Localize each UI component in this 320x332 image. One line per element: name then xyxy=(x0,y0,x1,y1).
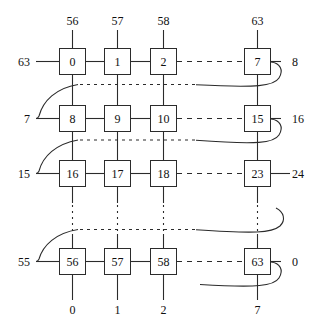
node-23[interactable]: 23 xyxy=(244,160,271,187)
top-label-col0: 56 xyxy=(57,14,88,29)
node-16[interactable]: 16 xyxy=(59,160,86,187)
bottom-label-col0: 0 xyxy=(57,303,88,318)
node-56[interactable]: 56 xyxy=(59,248,86,275)
left-label-row2: 15 xyxy=(0,167,30,182)
bottom-label-col7: 7 xyxy=(242,303,273,318)
left-label-row7: 55 xyxy=(0,255,30,270)
node-57[interactable]: 57 xyxy=(104,248,131,275)
bottom-label-col1: 1 xyxy=(102,303,133,318)
right-label-row7: 0 xyxy=(292,255,320,270)
wrap-right-hook-row6 xyxy=(196,208,283,232)
diagram-canvas: 0 1 2 7 8 9 10 15 16 17 18 23 56 57 58 6… xyxy=(0,0,320,332)
node-18[interactable]: 18 xyxy=(150,160,177,187)
left-label-row0: 63 xyxy=(0,55,30,70)
node-63[interactable]: 63 xyxy=(244,248,271,275)
top-label-col1: 57 xyxy=(102,14,133,29)
right-label-row1: 16 xyxy=(292,112,320,127)
node-1[interactable]: 1 xyxy=(104,48,131,75)
bottom-label-col2: 2 xyxy=(148,303,179,318)
node-15[interactable]: 15 xyxy=(244,105,271,132)
top-label-col7: 63 xyxy=(242,14,273,29)
node-7[interactable]: 7 xyxy=(244,48,271,75)
node-0[interactable]: 0 xyxy=(59,48,86,75)
node-17[interactable]: 17 xyxy=(104,160,131,187)
node-8[interactable]: 8 xyxy=(59,105,86,132)
left-label-row1: 7 xyxy=(0,112,30,127)
right-label-row2: 24 xyxy=(292,167,320,182)
node-58[interactable]: 58 xyxy=(150,248,177,275)
node-10[interactable]: 10 xyxy=(150,105,177,132)
node-2[interactable]: 2 xyxy=(150,48,177,75)
node-9[interactable]: 9 xyxy=(104,105,131,132)
right-label-row0: 8 xyxy=(292,55,320,70)
top-label-col2: 58 xyxy=(148,14,179,29)
